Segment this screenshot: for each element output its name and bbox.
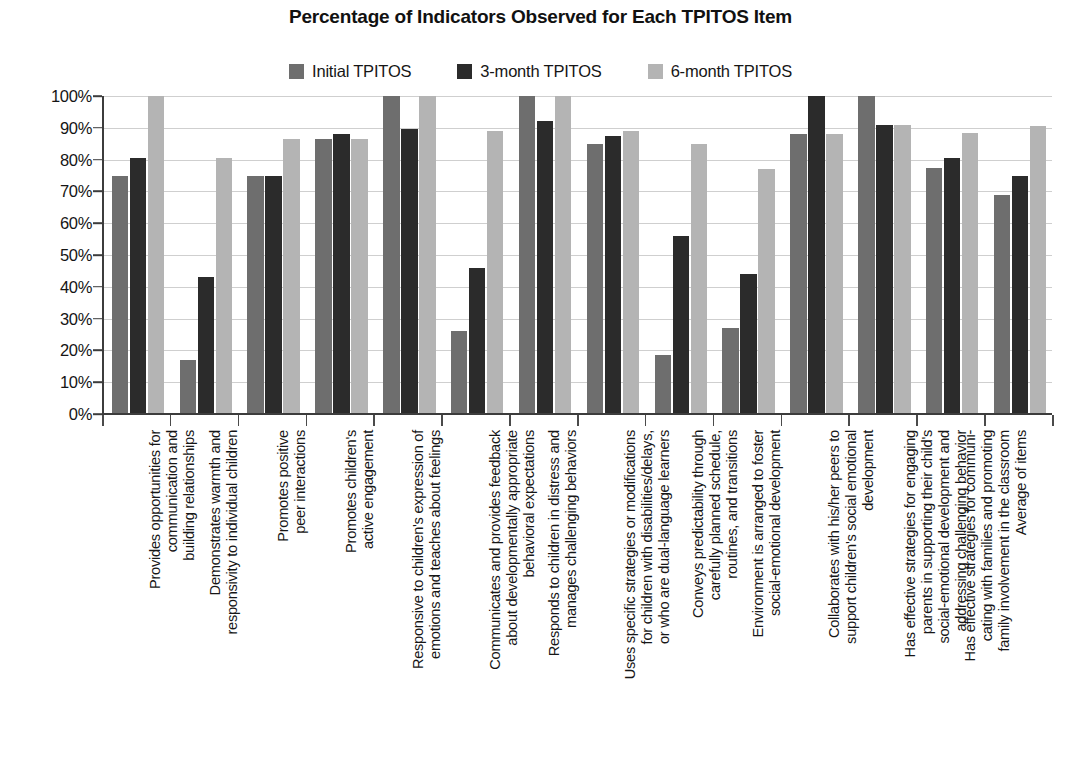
bar[interactable] bbox=[555, 96, 572, 414]
x-axis-tick bbox=[238, 415, 240, 426]
bar[interactable] bbox=[858, 96, 875, 414]
bar[interactable] bbox=[740, 274, 757, 414]
y-axis-tick-mark bbox=[93, 350, 102, 352]
legend-item-label: 3-month TPITOS bbox=[480, 62, 601, 81]
x-axis-category-label: Uses specific strategies or modification… bbox=[622, 430, 673, 679]
y-axis-tick-label: 20% bbox=[60, 341, 92, 360]
x-axis-tick bbox=[170, 415, 172, 426]
plot-area: 0%10%20%30%40%50%60%70%80%90%100% bbox=[0, 96, 1081, 426]
x-axis-category-label: Average of items bbox=[1013, 430, 1030, 535]
bar[interactable] bbox=[333, 134, 350, 414]
x-axis-tick bbox=[306, 415, 308, 426]
bar[interactable] bbox=[587, 144, 604, 414]
y-axis-tick-label: 10% bbox=[60, 373, 92, 392]
y-axis-tick-label: 100% bbox=[51, 87, 92, 106]
bar[interactable] bbox=[876, 125, 893, 414]
bar[interactable] bbox=[655, 355, 672, 414]
y-axis-tick-mark bbox=[93, 381, 102, 383]
x-axis-category-label: Promotes positive peer interactions bbox=[275, 430, 309, 542]
bar[interactable] bbox=[808, 96, 825, 414]
x-axis-category-label: Environment is arranged to foster social… bbox=[750, 430, 784, 638]
x-axis-category-label: Promotes children's active engagement bbox=[343, 430, 377, 553]
bar[interactable] bbox=[283, 139, 300, 414]
x-axis-category-label: Responds to children in distress and man… bbox=[546, 430, 580, 656]
bar[interactable] bbox=[673, 236, 690, 414]
y-axis: 0%10%20%30%40%50%60%70%80%90%100% bbox=[34, 96, 102, 414]
y-axis-tick-label: 80% bbox=[60, 150, 92, 169]
y-axis-tick-mark bbox=[93, 191, 102, 193]
y-axis-tick-label: 50% bbox=[60, 246, 92, 265]
x-axis-category-label: Collaborates with his/her peers to suppo… bbox=[826, 430, 877, 644]
y-axis-tick-mark bbox=[93, 318, 102, 320]
x-axis-category-label: Conveys predictability through carefully… bbox=[690, 430, 741, 618]
bar[interactable] bbox=[265, 176, 282, 415]
bar[interactable] bbox=[247, 176, 264, 415]
x-axis-category-label: Responsive to children's expression of e… bbox=[410, 430, 444, 669]
bar[interactable] bbox=[944, 158, 961, 414]
bar[interactable] bbox=[1012, 176, 1029, 415]
x-axis-category-label: Communicates and provides feedback about… bbox=[487, 430, 538, 670]
bar[interactable] bbox=[419, 96, 436, 414]
y-axis-tick-label: 60% bbox=[60, 214, 92, 233]
y-axis-tick-mark bbox=[93, 413, 102, 415]
bar[interactable] bbox=[451, 331, 468, 414]
legend-item[interactable]: 6-month TPITOS bbox=[648, 62, 792, 81]
y-axis-tick-label: 30% bbox=[60, 309, 92, 328]
bar[interactable] bbox=[130, 158, 147, 414]
bar[interactable] bbox=[315, 139, 332, 414]
bar[interactable] bbox=[605, 136, 622, 414]
x-axis-tick bbox=[645, 415, 647, 426]
x-axis-category-label: Demonstrates warmth and responsivity to … bbox=[207, 430, 241, 635]
legend-swatch-icon bbox=[648, 64, 663, 79]
y-axis-tick-mark bbox=[93, 127, 102, 129]
y-axis-tick-mark bbox=[93, 159, 102, 161]
x-axis-tick bbox=[373, 415, 375, 426]
legend-swatch-icon bbox=[457, 64, 472, 79]
legend-item-label: 6-month TPITOS bbox=[671, 62, 792, 81]
page-title: Percentage of Indicators Observed for Ea… bbox=[0, 6, 1081, 28]
x-axis-tick bbox=[916, 415, 918, 426]
bar[interactable] bbox=[351, 139, 368, 414]
bar[interactable] bbox=[383, 96, 400, 414]
bar[interactable] bbox=[758, 169, 775, 414]
bar[interactable] bbox=[148, 96, 165, 414]
y-axis-tick-label: 70% bbox=[60, 182, 92, 201]
bar[interactable] bbox=[537, 121, 554, 414]
bar[interactable] bbox=[994, 195, 1011, 414]
x-axis-tick bbox=[781, 415, 783, 426]
bar[interactable] bbox=[519, 96, 536, 414]
x-axis-category-label: Provides opportunities for communication… bbox=[147, 430, 198, 589]
bar[interactable] bbox=[1030, 126, 1047, 414]
y-axis-tick-mark bbox=[93, 222, 102, 224]
bar[interactable] bbox=[962, 133, 979, 414]
y-axis-tick-label: 0% bbox=[69, 405, 92, 424]
bar[interactable] bbox=[469, 268, 486, 414]
bar[interactable] bbox=[216, 158, 233, 414]
bar[interactable] bbox=[722, 328, 739, 414]
bar[interactable] bbox=[691, 144, 708, 414]
y-axis-tick-label: 40% bbox=[60, 277, 92, 296]
y-axis-tick-label: 90% bbox=[60, 118, 92, 137]
bar[interactable] bbox=[894, 125, 911, 414]
bar[interactable] bbox=[198, 277, 215, 414]
bar[interactable] bbox=[180, 360, 197, 414]
bar[interactable] bbox=[826, 134, 843, 414]
x-axis-tick bbox=[441, 415, 443, 426]
x-axis-tick bbox=[102, 415, 104, 426]
bar[interactable] bbox=[401, 129, 418, 414]
bar[interactable] bbox=[926, 168, 943, 414]
bar[interactable] bbox=[790, 134, 807, 414]
x-axis-category-label: Has effective strategies for engaging pa… bbox=[902, 430, 970, 657]
bar[interactable] bbox=[487, 131, 504, 414]
legend-item[interactable]: 3-month TPITOS bbox=[457, 62, 601, 81]
x-axis-tick bbox=[984, 415, 986, 426]
bar[interactable] bbox=[623, 131, 640, 414]
y-axis-tick-mark bbox=[93, 286, 102, 288]
x-axis-tick bbox=[848, 415, 850, 426]
x-axis-category-labels: Provides opportunities for communication… bbox=[0, 430, 1081, 730]
y-axis-tick-mark bbox=[93, 95, 102, 97]
y-axis-tick-mark bbox=[93, 254, 102, 256]
x-axis-category-label: Has effective strategies for communi- ca… bbox=[962, 430, 1013, 661]
legend-item[interactable]: Initial TPITOS bbox=[289, 62, 411, 81]
bar[interactable] bbox=[112, 176, 129, 415]
